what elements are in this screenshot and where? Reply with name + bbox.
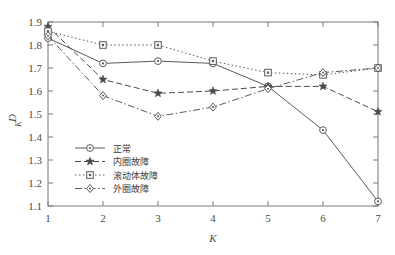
series-3: [45, 28, 382, 78]
series-2: [44, 22, 382, 115]
y-tick-label: 1.5: [28, 108, 42, 120]
series-line: [48, 27, 378, 112]
y-tick-label: 1.9: [28, 16, 42, 28]
y-tick-label: 1.6: [28, 85, 42, 97]
x-axis-title: K: [208, 232, 217, 244]
legend-entry-4: 外圈故障: [75, 183, 149, 194]
axes: [48, 22, 378, 206]
line-chart: 1.11.21.31.41.51.61.71.81.91234567 正常内圈故…: [0, 0, 395, 255]
plot-frame: [48, 22, 378, 206]
tick-marks: [48, 22, 378, 206]
y-tick-label: 1.7: [28, 62, 42, 74]
series-line: [48, 31, 378, 75]
y-axis-title-subscript: K: [14, 121, 23, 128]
legend-entry-1: 正常: [75, 143, 131, 154]
data-series: [44, 22, 382, 204]
x-tick-label: 5: [265, 212, 271, 224]
legend-label: 外圈故障: [113, 183, 149, 194]
x-tick-label: 7: [375, 212, 381, 224]
legend-entry-2: 内圈故障: [75, 156, 149, 167]
y-tick-label: 1.4: [28, 131, 42, 143]
chart-legend: 正常内圈故障滚动体故障外圈故障: [75, 143, 158, 195]
legend-entry-3: 滚动体故障: [75, 170, 158, 181]
figure-container: 1.11.21.31.41.51.61.71.81.91234567 正常内圈故…: [0, 0, 395, 255]
legend-label: 内圈故障: [113, 156, 149, 167]
y-tick-label: 1.2: [28, 177, 42, 189]
x-tick-label: 6: [320, 212, 326, 224]
x-tick-label: 1: [45, 212, 51, 224]
legend-label: 正常: [113, 143, 131, 154]
tick-labels: 1.11.21.31.41.51.61.71.81.91234567: [28, 16, 381, 224]
x-tick-label: 4: [210, 212, 216, 224]
legend-label: 滚动体故障: [113, 170, 158, 181]
x-tick-label: 2: [100, 212, 106, 224]
series-4: [45, 32, 382, 121]
y-tick-label: 1.8: [28, 39, 42, 51]
y-tick-label: 1.1: [28, 200, 42, 212]
y-tick-label: 1.3: [28, 154, 42, 166]
x-tick-label: 3: [155, 212, 161, 224]
